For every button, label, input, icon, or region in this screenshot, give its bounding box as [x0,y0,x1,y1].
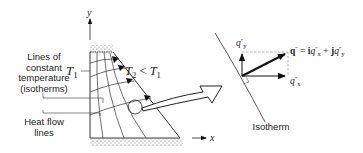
qx-label: q″x [290,76,300,87]
t1-label: T1 [66,63,78,80]
isotherms-label-line: (isotherms) [4,84,84,95]
isotherms-label-line: Lines of [4,52,84,63]
heat-flux-vectors [242,54,285,76]
heat-flow-label: Heat flow lines [14,117,74,138]
isotherm-caption: Isotherm [246,122,296,133]
y-axis-label: y [87,7,91,18]
heat-flow-label-line: Heat flow [14,117,74,128]
insulation-bottom [90,138,183,146]
zoom-arrow [142,86,222,111]
heat-flow-label-line: lines [14,128,74,139]
qy-label: q″y [236,38,246,49]
q-resultant-vector [242,54,285,76]
t2-less-than-t1-label: T2 < T1 [125,64,161,80]
insulation-top [90,45,113,52]
heat-flux-vector-equation: q″ = iq″x + jq″y [290,46,345,57]
detail-circle [128,100,142,114]
x-axis-label: x [210,132,214,143]
